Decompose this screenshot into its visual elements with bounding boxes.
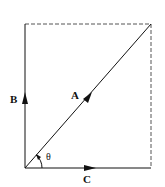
vector-a-arrowhead-icon [83, 92, 92, 103]
vector-b [22, 24, 28, 168]
vector-c-arrowhead-icon [84, 165, 96, 171]
vector-c [25, 165, 151, 171]
vector-b-arrowhead-icon [22, 92, 28, 104]
label-c: C [83, 173, 91, 185]
vector-diagram: B A C θ [0, 0, 165, 187]
vector-a [25, 24, 151, 168]
theta-arrowhead-icon [36, 154, 41, 160]
label-b: B [10, 93, 18, 105]
label-theta: θ [46, 151, 51, 162]
label-a: A [71, 89, 79, 101]
angle-theta [36, 154, 42, 168]
